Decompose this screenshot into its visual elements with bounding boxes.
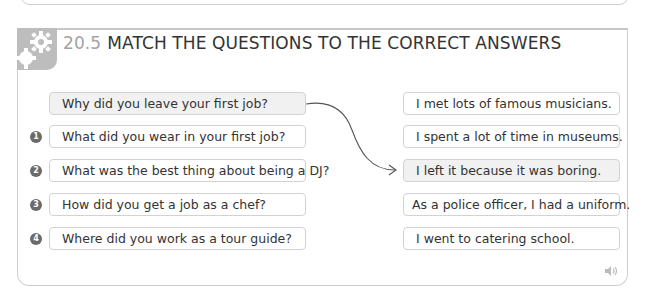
gears-icon <box>17 28 57 70</box>
answer-option-4[interactable]: As a police officer, I had a uniform. <box>403 193 620 216</box>
exercise-instruction: MATCH THE QUESTIONS TO THE CORRECT ANSWE… <box>107 33 561 53</box>
question-3[interactable]: How did you get a job as a chef? <box>49 193 306 216</box>
exercise-number: 20.5 <box>63 33 101 53</box>
question-number-1: 1 <box>30 131 42 143</box>
question-1[interactable]: What did you wear in your first job? <box>49 125 306 148</box>
question-number-3: 3 <box>30 199 42 211</box>
question-number-2: 2 <box>30 165 42 177</box>
question-4[interactable]: Where did you work as a tour guide? <box>49 227 306 250</box>
answer-option-5[interactable]: I went to catering school. <box>403 227 620 250</box>
question-number-4: 4 <box>30 233 42 245</box>
previous-exercise-panel <box>20 0 629 5</box>
question-2[interactable]: What was the best thing about being a DJ… <box>49 159 306 182</box>
answer-option-1[interactable]: I met lots of famous musicians. <box>403 92 620 115</box>
speaker-icon[interactable] <box>604 263 620 282</box>
example-question: Why did you leave your first job? <box>49 92 306 115</box>
example-answer: I left it because it was boring. <box>403 159 620 182</box>
answer-option-2[interactable]: I spent a lot of time in museums. <box>403 125 620 148</box>
exercise-title: 20.5MATCH THE QUESTIONS TO THE CORRECT A… <box>63 33 561 53</box>
